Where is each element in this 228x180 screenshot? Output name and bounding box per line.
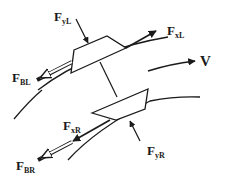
- label-fyr: FyR: [147, 143, 165, 160]
- label-fbl: FBL: [12, 70, 31, 87]
- label-fbr: FBR: [16, 158, 35, 175]
- right-track-curve: [14, 90, 42, 119]
- label-v: V: [200, 53, 211, 69]
- axle-line: [100, 62, 117, 97]
- fyr-arrow: [130, 121, 140, 141]
- fbl-arrow-inner: [40, 62, 72, 78]
- label-fyl: FyL: [54, 9, 71, 26]
- label-fxl: FxL: [167, 23, 184, 40]
- fbr-arrow-inner: [41, 142, 72, 158]
- label-fxr: FxR: [63, 118, 81, 135]
- left-wheel: [71, 36, 126, 73]
- fyl-arrow: [76, 19, 88, 43]
- force-diagram: FyL FxL FBL V FxR FyR FBR: [0, 0, 228, 180]
- right-wheel: [92, 89, 148, 120]
- velocity-arrow: [148, 61, 195, 71]
